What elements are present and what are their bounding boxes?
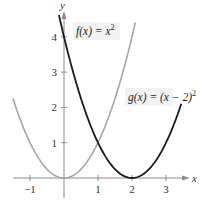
y-axis-arrow-icon	[62, 11, 67, 19]
chart: x y −11231234 f(x) = x2 g(x) = (x − 2)2	[0, 0, 201, 208]
series-f-curve	[13, 22, 135, 178]
y-tick-label: 4	[52, 31, 58, 43]
x-tick-label: −1	[24, 183, 36, 195]
g-label: g(x) = (x − 2)2	[128, 89, 196, 104]
x-axis-label: x	[191, 172, 197, 184]
y-axis-label: y	[59, 0, 65, 11]
y-tick-label: 3	[52, 66, 58, 78]
f-label: f(x) = x2	[76, 23, 115, 38]
x-tick-label: 3	[163, 183, 169, 195]
x-axis: x	[13, 172, 197, 184]
y-tick-label: 1	[52, 137, 58, 149]
x-axis-arrow-icon	[182, 176, 190, 181]
x-tick-label: 1	[95, 183, 101, 195]
y-tick-label: 2	[52, 101, 58, 113]
x-tick-label: 2	[129, 183, 135, 195]
